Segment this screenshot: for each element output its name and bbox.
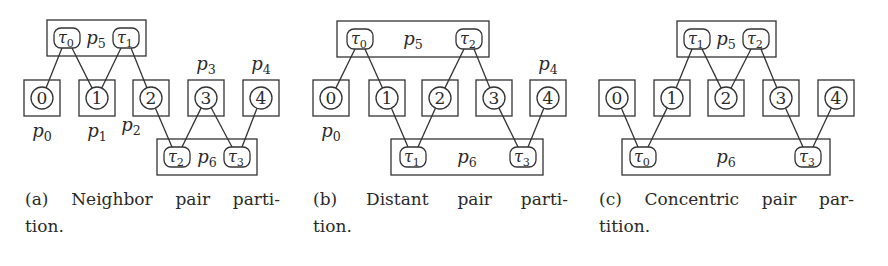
panel-c: 01234p5τ1τ2p6τ0τ3: [599, 21, 854, 175]
item-number: 3: [201, 88, 212, 108]
group-p5: p5τ0τ1: [47, 20, 146, 56]
processor-label: p0: [321, 120, 341, 144]
processor-0: 0p0: [24, 80, 60, 144]
assignment-edge: [242, 108, 257, 147]
panel-b: 0p01234p4p5τ0τ2p6τ1τ3: [313, 21, 566, 175]
item-number: 1: [667, 88, 678, 108]
caption-a-line1: (a) Neighbor pair parti-: [25, 186, 280, 213]
item-number: 1: [92, 88, 103, 108]
processor-label: p4: [538, 53, 558, 77]
caption-c: (c) Concentric pair par- tition.: [599, 186, 854, 240]
processor-3: 3: [763, 80, 799, 116]
item-number: 4: [831, 88, 842, 108]
assignment-edge: [648, 108, 667, 147]
processor-0: 0p0: [313, 80, 349, 144]
item-number: 2: [435, 88, 446, 108]
group-p6: p6τ0τ3: [622, 139, 830, 175]
assignment-edge: [499, 108, 518, 147]
item-number: 0: [37, 88, 48, 108]
assignment-edge: [445, 49, 464, 88]
group-p5: p5τ1τ2: [677, 21, 776, 57]
panel-a: 0p01p12p23p34p4p5τ0τ1p6τ2τ3: [24, 20, 279, 175]
assignment-edge: [418, 108, 435, 147]
group-label: p6: [197, 146, 217, 170]
processor-1: 1: [654, 80, 690, 116]
processor-2: 2p2: [121, 80, 169, 138]
caption-a-line2: tion.: [25, 213, 280, 240]
assignment-edge: [336, 49, 355, 88]
group-label: p6: [457, 146, 477, 170]
processor-0: 0: [599, 80, 635, 116]
group-label: p5: [86, 27, 106, 51]
processor-4: 4: [818, 80, 854, 116]
assignment-edge: [72, 48, 92, 88]
item-number: 0: [612, 88, 623, 108]
processor-3: 3p3: [188, 53, 224, 116]
item-number: 4: [543, 88, 554, 108]
processor-4: 4p4: [530, 53, 566, 116]
processor-label: p2: [121, 114, 141, 138]
caption-c-line2: tition.: [599, 213, 854, 240]
processor-label: p1: [87, 120, 107, 144]
item-number: 2: [721, 88, 732, 108]
assignment-edge: [102, 48, 121, 88]
item-number: 0: [326, 88, 337, 108]
item-number: 2: [146, 88, 157, 108]
item-number: 3: [776, 88, 787, 108]
item-number: 4: [256, 88, 267, 108]
group-label: p5: [716, 28, 736, 52]
group-label: p5: [403, 28, 423, 52]
assignment-edge: [786, 108, 803, 147]
processor-label: p3: [196, 53, 216, 77]
assignment-edge: [702, 49, 721, 88]
caption-b-line2: tion.: [313, 213, 568, 240]
processor-label: p4: [251, 53, 271, 77]
assignment-edge: [813, 108, 831, 147]
processor-2: 2: [708, 80, 744, 116]
item-number: 1: [382, 88, 393, 108]
caption-b: (b) Distant pair parti- tion.: [313, 186, 568, 240]
caption-b-line1: (b) Distant pair parti-: [313, 186, 568, 213]
processor-2: 2: [422, 80, 458, 116]
processor-label: p0: [32, 120, 52, 144]
group-p6: p6τ2τ3: [157, 139, 257, 175]
group-p6: p6τ1τ3: [391, 139, 543, 175]
item-number: 3: [489, 88, 500, 108]
assignment-edge: [211, 108, 232, 147]
caption-c-line1: (c) Concentric pair par-: [599, 186, 854, 213]
caption-a: (a) Neighbor pair parti- tion.: [25, 186, 280, 240]
processor-4: 4p4: [243, 53, 279, 116]
assignment-edge: [731, 49, 751, 88]
assignment-edge: [365, 49, 382, 88]
group-p5: p5τ0τ2: [337, 21, 489, 57]
processor-1: 1p1: [79, 80, 115, 144]
processor-3: 3: [476, 80, 512, 116]
group-label: p6: [716, 146, 736, 170]
assignment-edge: [182, 108, 201, 147]
processor-1: 1: [369, 80, 405, 116]
